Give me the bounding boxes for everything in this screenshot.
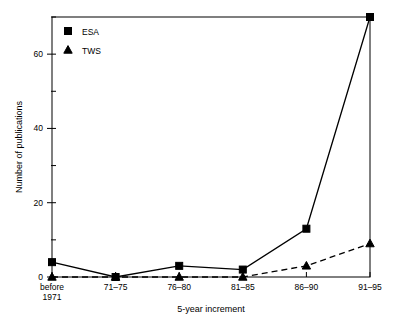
- series-tws: [48, 239, 374, 280]
- line-chart: 0204060 before197171–7576–8081–8586–9091…: [0, 0, 416, 327]
- y-axis-tick-label: 60: [34, 49, 44, 59]
- x-axis-tick-label: before: [40, 282, 64, 292]
- data-point-marker-triangle: [366, 239, 374, 247]
- y-axis-tick-label: 20: [34, 198, 44, 208]
- series-line: [52, 17, 370, 277]
- y-axis-tick-label: 0: [38, 272, 43, 282]
- series-line: [52, 244, 370, 277]
- plot-frame: [52, 17, 370, 277]
- data-point-marker-square: [303, 225, 310, 232]
- data-point-marker-triangle: [64, 46, 72, 54]
- data-point-marker-square: [49, 259, 56, 266]
- x-axis-tick-label: 86–90: [295, 282, 319, 292]
- x-axis-tick-label: 71–75: [104, 282, 128, 292]
- data-point-marker-square: [367, 14, 374, 21]
- data-point-marker-triangle: [302, 261, 310, 269]
- x-axis-tick-label: 76–80: [167, 282, 191, 292]
- x-axis-tick-label: 91–95: [358, 282, 382, 292]
- x-axis-tick-label: 81–85: [231, 282, 255, 292]
- x-axis-tick-labels: before197171–7576–8081–8586–9091–95: [40, 282, 382, 302]
- legend-label-esa: ESA: [82, 27, 99, 37]
- x-axis-tick-label-line2: 1971: [43, 292, 62, 302]
- y-axis-tick-label: 40: [34, 123, 44, 133]
- y-axis-tick-labels: 0204060: [34, 49, 44, 282]
- x-axis-title: 5-year increment: [177, 304, 245, 314]
- data-point-marker-square: [65, 28, 72, 35]
- legend-label-tws: TWS: [82, 46, 101, 56]
- chart-container: 0204060 before197171–7576–8081–8586–9091…: [0, 0, 416, 327]
- data-point-marker-square: [176, 262, 183, 269]
- y-axis-title: Number of publications: [14, 100, 24, 193]
- chart-legend: ESATWS: [64, 27, 101, 56]
